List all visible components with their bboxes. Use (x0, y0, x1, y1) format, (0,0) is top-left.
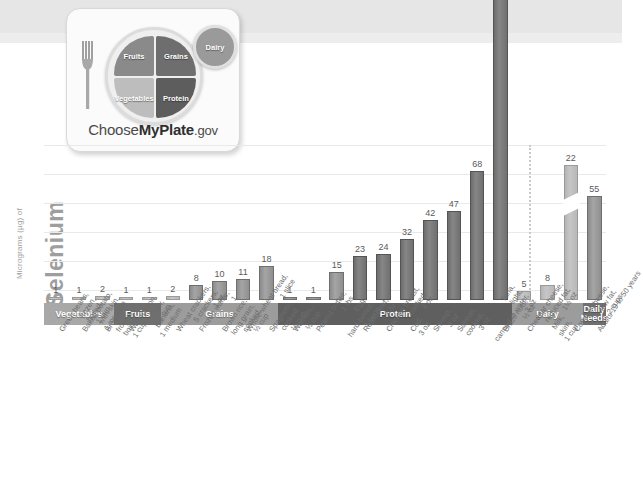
bar-18: 68 (470, 171, 485, 300)
myplate-wordmark: ChooseMyPlate.gov (67, 121, 239, 138)
bar-value-label: 15 (332, 260, 342, 270)
bars-container: 11211281011181115232432424768544582255 (44, 145, 606, 300)
bar-value-label: 1 (123, 285, 128, 295)
plate-section-grains: Grains (156, 36, 196, 76)
x-axis-labels: Green beans,frozen,boiled,1 cupBaked pot… (0, 325, 622, 475)
bar-value-label: 1 (53, 285, 58, 295)
bar-23: 55 (587, 196, 602, 301)
plate-graphic: Fruits Grains Vegetables Protein (105, 27, 203, 125)
bar-11: 1 (306, 297, 321, 300)
plate-section-dairy: Dairy (193, 25, 237, 69)
bar-13: 23 (353, 256, 368, 300)
bar-value-label: 5 (522, 279, 527, 289)
bar-value-label: 8 (545, 273, 550, 283)
bar-value-label: 42 (425, 208, 435, 218)
wordmark-gov: .gov (194, 123, 218, 138)
bar-14: 24 (376, 254, 391, 300)
fork-icon (81, 39, 95, 111)
bar-value-label: 8 (194, 273, 199, 283)
bar-value-label: 18 (261, 254, 271, 264)
axis-break-mark (563, 192, 580, 216)
bar-value-label: 2 (170, 284, 175, 294)
bar-22: 22 (564, 165, 579, 300)
y-axis-title-units: Micrograms (µg) of (15, 99, 29, 279)
bar-value-label: 68 (472, 159, 482, 169)
plate-section-fruits: Fruits (114, 36, 154, 76)
bar-17: 47 (447, 211, 462, 300)
bar-value-label: 23 (355, 244, 365, 254)
bar-value-label: 24 (379, 242, 389, 252)
bar-value-label: 10 (215, 269, 225, 279)
bar-5: 2 (166, 296, 181, 300)
plate-section-vegetables: Vegetables (114, 78, 154, 118)
bar-value-label: 1 (311, 285, 316, 295)
bar-8: 11 (236, 279, 251, 300)
wordmark-choose: Choose (88, 121, 139, 138)
wordmark-myplate: MyPlate (139, 121, 194, 138)
y-axis-title-group: Selenium Micrograms (µg) of (2, 95, 42, 310)
bar-16: 42 (423, 220, 438, 300)
plate-section-protein: Protein (156, 78, 196, 118)
bar-value-label: 55 (589, 184, 599, 194)
bar-19: 544 (493, 0, 508, 300)
bar-value-label: 22 (566, 153, 576, 163)
bar-value-label: 11 (238, 267, 247, 277)
bar-value-label: 47 (449, 199, 459, 209)
bar-value-label: 32 (402, 227, 412, 237)
bar-0: 1 (48, 297, 63, 300)
myplate-logo: Fruits Grains Vegetables Protein Dairy C… (66, 8, 240, 152)
